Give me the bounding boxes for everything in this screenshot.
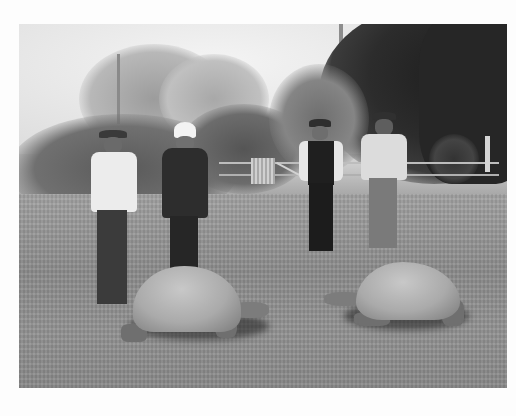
tortoise-shell [356, 262, 460, 320]
trousers [309, 183, 333, 251]
shirt [91, 152, 137, 212]
tortoise-shell [133, 266, 241, 332]
head [312, 126, 328, 140]
photograph [19, 24, 507, 388]
head [375, 119, 393, 135]
tortoise-left [119, 262, 279, 352]
man-light-shirt [359, 112, 411, 252]
head [104, 137, 122, 153]
dark-coat [162, 148, 208, 218]
man-pith-helmet [162, 122, 212, 272]
fence-post-right [485, 136, 490, 172]
man-waistcoat [299, 119, 345, 254]
shirt [361, 134, 407, 180]
gate [251, 158, 275, 184]
waistcoat [308, 141, 334, 185]
trousers [369, 178, 397, 248]
shrub-right [429, 134, 479, 184]
tortoise-right [324, 260, 474, 350]
